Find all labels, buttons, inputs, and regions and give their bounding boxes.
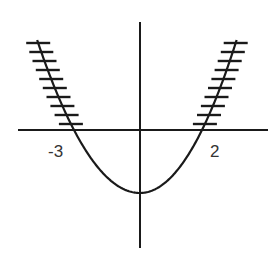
parabola-graph: -3 2 xyxy=(0,0,276,254)
hatch-marks xyxy=(26,43,248,124)
parabola-curve xyxy=(37,40,236,193)
root-label-right: 2 xyxy=(210,142,219,161)
root-label-left: -3 xyxy=(48,142,63,161)
